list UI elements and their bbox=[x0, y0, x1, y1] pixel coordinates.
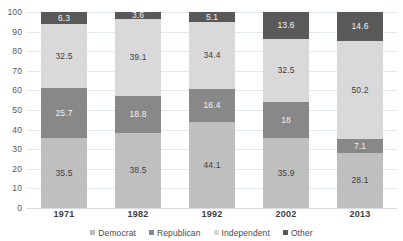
bar-segment-other-2002[interactable]: 13.6 bbox=[263, 12, 309, 39]
bar-segment-republican-1971[interactable]: 25.7 bbox=[41, 88, 87, 138]
bar-column-2002[interactable]: 13.632.51835.9 bbox=[249, 12, 323, 208]
legend-swatch-icon bbox=[149, 230, 154, 235]
legend-item-independent[interactable]: Independent bbox=[214, 228, 270, 238]
x-axis: 19711982199220022013 bbox=[27, 209, 397, 224]
bar-segment-independent-2002[interactable]: 32.5 bbox=[263, 39, 309, 103]
bar-segment-independent-1992[interactable]: 34.4 bbox=[189, 22, 235, 89]
y-axis: 0102030405060708090100 bbox=[0, 12, 25, 208]
y-axis-tick-label: 60 bbox=[12, 85, 22, 95]
y-axis-tick-label: 80 bbox=[12, 46, 22, 56]
stacked-bar-chart: 0102030405060708090100 6.332.525.735.53.… bbox=[0, 0, 403, 241]
bar-segment-republican-2002[interactable]: 18 bbox=[263, 102, 309, 137]
bar-segment-democrat-1992[interactable]: 44.1 bbox=[189, 122, 235, 208]
bar-segment-democrat-2013[interactable]: 28.1 bbox=[337, 153, 383, 208]
bar-segment-independent-2013[interactable]: 50.2 bbox=[337, 41, 383, 139]
chart-title bbox=[0, 0, 403, 1]
bar-segment-value-label: 28.1 bbox=[352, 176, 369, 185]
bar-segment-value-label: 35.5 bbox=[56, 169, 73, 178]
bar-segment-republican-1982[interactable]: 18.8 bbox=[115, 96, 161, 133]
bar-segment-democrat-2002[interactable]: 35.9 bbox=[263, 138, 309, 208]
legend-label: Other bbox=[291, 228, 313, 238]
bar-segment-value-label: 38.5 bbox=[130, 166, 147, 175]
bar-column-2013[interactable]: 14.650.27.128.1 bbox=[323, 12, 397, 208]
bar-segment-republican-1992[interactable]: 16.4 bbox=[189, 89, 235, 121]
x-axis-tick-label-1992: 1992 bbox=[175, 209, 249, 224]
chart-legend: DemocratRepublicanIndependentOther bbox=[0, 226, 403, 239]
bar-column-1982[interactable]: 3.639.118.838.5 bbox=[101, 12, 175, 208]
y-axis-tick-label: 100 bbox=[8, 7, 22, 17]
bar-segment-other-2013[interactable]: 14.6 bbox=[337, 12, 383, 41]
legend-item-democrat[interactable]: Democrat bbox=[90, 228, 136, 238]
x-axis-tick-label-2013: 2013 bbox=[323, 209, 397, 224]
bar-segment-independent-1971[interactable]: 32.5 bbox=[41, 24, 87, 88]
y-axis-tick-label: 10 bbox=[12, 183, 22, 193]
bar-stack: 13.632.51835.9 bbox=[263, 12, 309, 208]
bar-segment-value-label: 16.4 bbox=[204, 101, 221, 110]
bar-segment-value-label: 25.7 bbox=[56, 109, 73, 118]
bar-segment-value-label: 32.5 bbox=[278, 66, 295, 75]
bar-segment-republican-2013[interactable]: 7.1 bbox=[337, 139, 383, 153]
y-axis-tick-label: 0 bbox=[17, 203, 22, 213]
y-axis-tick-label: 90 bbox=[12, 27, 22, 37]
bar-segment-independent-1982[interactable]: 39.1 bbox=[115, 19, 161, 96]
bar-segment-other-1992[interactable]: 5.1 bbox=[189, 12, 235, 22]
bar-segment-value-label: 32.5 bbox=[56, 52, 73, 61]
bar-segment-democrat-1971[interactable]: 35.5 bbox=[41, 138, 87, 208]
bar-segment-value-label: 35.9 bbox=[278, 169, 295, 178]
legend-swatch-icon bbox=[214, 230, 219, 235]
bar-stack: 5.134.416.444.1 bbox=[189, 12, 235, 208]
bar-stack: 3.639.118.838.5 bbox=[115, 12, 161, 208]
y-axis-tick-label: 50 bbox=[12, 105, 22, 115]
bar-stack: 6.332.525.735.5 bbox=[41, 12, 87, 208]
bar-group: 6.332.525.735.53.639.118.838.55.134.416.… bbox=[27, 12, 397, 208]
x-axis-tick-label-2002: 2002 bbox=[249, 209, 323, 224]
y-axis-tick-label: 20 bbox=[12, 164, 22, 174]
bar-segment-democrat-1982[interactable]: 38.5 bbox=[115, 133, 161, 208]
bar-segment-value-label: 3.6 bbox=[132, 12, 144, 19]
y-axis-tick-label: 30 bbox=[12, 144, 22, 154]
bar-segment-value-label: 18 bbox=[281, 116, 291, 125]
bar-segment-other-1982[interactable]: 3.6 bbox=[115, 12, 161, 19]
bar-segment-value-label: 44.1 bbox=[204, 161, 221, 170]
legend-label: Democrat bbox=[98, 228, 136, 238]
bar-segment-value-label: 34.4 bbox=[204, 51, 221, 60]
y-axis-tick-label: 70 bbox=[12, 66, 22, 76]
bar-segment-value-label: 39.1 bbox=[130, 53, 147, 62]
bar-segment-value-label: 5.1 bbox=[206, 13, 218, 22]
bar-segment-value-label: 50.2 bbox=[352, 86, 369, 95]
bar-column-1992[interactable]: 5.134.416.444.1 bbox=[175, 12, 249, 208]
legend-item-other[interactable]: Other bbox=[283, 228, 313, 238]
bar-segment-other-1971[interactable]: 6.3 bbox=[41, 12, 87, 24]
legend-item-republican[interactable]: Republican bbox=[149, 228, 201, 238]
bar-segment-value-label: 6.3 bbox=[58, 14, 70, 23]
bar-segment-value-label: 7.1 bbox=[354, 142, 366, 151]
bar-segment-value-label: 13.6 bbox=[278, 21, 295, 30]
legend-label: Independent bbox=[222, 228, 270, 238]
bar-stack: 14.650.27.128.1 bbox=[337, 12, 383, 208]
x-axis-tick-label-1982: 1982 bbox=[101, 209, 175, 224]
legend-swatch-icon bbox=[283, 230, 288, 235]
legend-swatch-icon bbox=[90, 230, 95, 235]
plot-area: 6.332.525.735.53.639.118.838.55.134.416.… bbox=[27, 12, 397, 208]
legend-label: Republican bbox=[157, 228, 201, 238]
bar-column-1971[interactable]: 6.332.525.735.5 bbox=[27, 12, 101, 208]
x-axis-tick-label-1971: 1971 bbox=[27, 209, 101, 224]
y-axis-tick-label: 40 bbox=[12, 125, 22, 135]
bar-segment-value-label: 14.6 bbox=[352, 22, 369, 31]
bar-segment-value-label: 18.8 bbox=[130, 110, 147, 119]
